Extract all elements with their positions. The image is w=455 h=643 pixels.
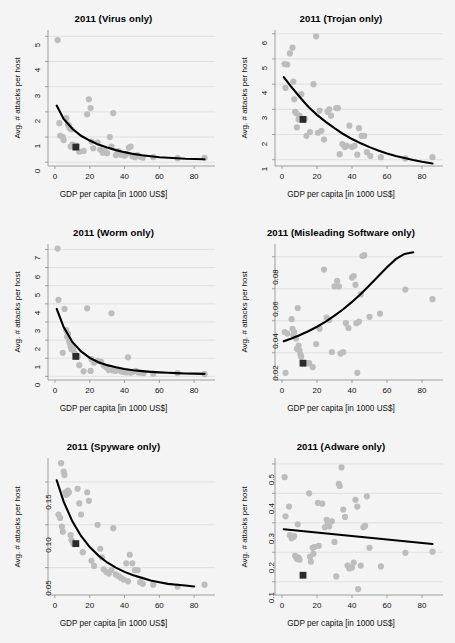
- data-point: [326, 106, 332, 112]
- data-point: [284, 61, 290, 67]
- y-tick-label: 0.02: [271, 365, 280, 381]
- data-point: [352, 282, 358, 288]
- data-point: [402, 287, 408, 293]
- data-point: [366, 314, 372, 320]
- x-axis-label: GDP per capita [in 1000 US$]: [0, 619, 227, 628]
- data-point: [351, 273, 357, 279]
- y-axis-label: Avg. # attacks per host: [240, 271, 249, 352]
- x-tick-label: 40: [337, 386, 367, 395]
- data-point: [284, 331, 290, 337]
- data-point: [378, 563, 384, 569]
- axis-lines: [272, 30, 443, 169]
- y-tick-label: 0.3: [267, 533, 276, 544]
- data-point: [329, 518, 335, 524]
- data-point: [140, 581, 146, 587]
- data-point: [308, 559, 314, 565]
- scatter-points: [282, 252, 436, 376]
- data-point: [344, 143, 350, 149]
- x-tick-label: 60: [144, 601, 174, 610]
- data-point: [342, 514, 348, 520]
- data-point: [134, 567, 140, 573]
- data-point: [104, 150, 110, 156]
- x-axis-label: GDP per capita [in 1000 US$]: [0, 190, 227, 199]
- data-point: [80, 549, 86, 555]
- x-tick-label: 60: [372, 172, 402, 181]
- y-tick-label: 5: [260, 66, 269, 70]
- data-point: [86, 96, 92, 102]
- data-point: [356, 319, 362, 325]
- x-tick-label: 80: [407, 172, 437, 181]
- x-tick-label: 40: [337, 172, 367, 181]
- y-tick-label: 0.5: [267, 474, 276, 485]
- data-point: [295, 305, 301, 311]
- data-point: [123, 560, 129, 566]
- data-point: [282, 85, 288, 91]
- chart-panel: 2011 (Trojan only)123456020406080Avg. # …: [227, 0, 455, 214]
- data-point: [97, 546, 103, 552]
- data-point: [336, 283, 342, 289]
- y-tick-label: 5: [33, 292, 42, 296]
- data-point: [340, 349, 346, 355]
- data-point: [328, 113, 334, 119]
- x-tick-label: 0: [267, 601, 297, 610]
- data-point: [340, 506, 346, 512]
- y-tick-label: 3: [260, 116, 269, 120]
- y-tick-label: 0.10: [44, 537, 53, 553]
- multi-panel-scatter-figure: 2011 (Virus only)012345020406080Avg. # a…: [0, 0, 455, 643]
- data-point: [321, 267, 327, 273]
- x-axis-label: GDP per capita [in 1000 US$]: [227, 190, 455, 199]
- data-point: [129, 560, 135, 566]
- y-tick-label: 6: [33, 274, 42, 278]
- data-point: [324, 517, 330, 523]
- y-tick-label: 3: [33, 93, 42, 97]
- data-point: [291, 96, 297, 102]
- data-point: [94, 522, 100, 528]
- data-point: [429, 296, 435, 302]
- data-point: [358, 562, 364, 568]
- data-point: [334, 278, 340, 284]
- data-point: [289, 316, 295, 322]
- data-point: [317, 107, 323, 113]
- highlight-marker: [300, 572, 307, 579]
- x-tick-label: 60: [372, 601, 402, 610]
- data-point: [346, 123, 352, 129]
- x-tick-label: 80: [179, 601, 209, 610]
- data-point: [355, 586, 361, 592]
- y-tick-label: 3: [33, 329, 42, 333]
- data-point: [61, 472, 67, 478]
- highlight-marker: [72, 540, 79, 547]
- data-point: [291, 533, 297, 539]
- data-point: [364, 493, 370, 499]
- plot-area: [227, 214, 455, 428]
- data-point: [125, 578, 131, 584]
- y-tick-label: 4: [33, 311, 42, 315]
- data-point: [307, 129, 313, 135]
- data-point: [377, 311, 383, 317]
- x-tick-label: 80: [179, 172, 209, 181]
- data-point: [54, 37, 60, 43]
- data-point: [337, 483, 343, 489]
- data-point: [313, 341, 319, 347]
- data-point: [108, 310, 114, 316]
- data-point: [354, 370, 360, 376]
- y-tick-label: 5: [33, 43, 42, 47]
- data-point: [60, 350, 66, 356]
- data-point: [321, 136, 327, 142]
- data-point: [310, 81, 316, 87]
- x-axis-label: GDP per capita [in 1000 US$]: [227, 404, 455, 413]
- x-axis-label: GDP per capita [in 1000 US$]: [227, 619, 455, 628]
- data-point: [76, 500, 82, 506]
- data-point: [61, 137, 67, 143]
- data-point: [91, 563, 97, 569]
- data-point: [88, 368, 94, 374]
- chart-panel: 2011 (Virus only)012345020406080Avg. # a…: [0, 0, 227, 214]
- x-tick-label: 0: [40, 601, 70, 610]
- data-point: [57, 515, 63, 521]
- y-tick-label: 1: [33, 144, 42, 148]
- y-tick-label: 0.15: [44, 494, 53, 510]
- data-point: [128, 144, 134, 150]
- data-point: [331, 539, 337, 545]
- y-tick-label: 6: [260, 40, 269, 44]
- y-axis-label: Avg. # attacks per host: [240, 486, 249, 567]
- data-point: [335, 105, 341, 111]
